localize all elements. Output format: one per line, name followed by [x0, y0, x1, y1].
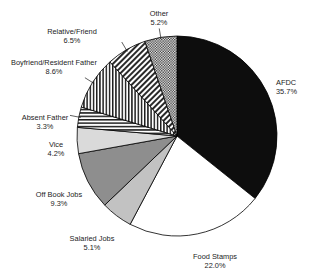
slice-label-name: Other: [128, 9, 190, 18]
slice-label-value: 5.1%: [52, 243, 132, 252]
slice-label-value: 22.0%: [169, 261, 261, 270]
slice-leader-line: [122, 42, 128, 51]
slice-label-value: 6.5%: [28, 36, 116, 45]
slice-label-afdc: AFDC 35.7%: [276, 78, 297, 96]
slice-label-name: Boyfriend/Resident Father: [2, 58, 106, 67]
slice-label-value: 9.3%: [17, 199, 101, 208]
slice-label-other: Other 5.2%: [128, 9, 190, 27]
slice-label-food-stamps: Food Stamps 22.0%: [169, 252, 261, 270]
slice-label-name: Vice: [34, 140, 78, 149]
slice-label-name: Food Stamps: [169, 252, 261, 261]
slice-label-absent-father: Absent Father 3.3%: [4, 113, 86, 131]
slice-leader-line: [85, 78, 94, 84]
slice-label-salaried-jobs: Salaried Jobs 5.1%: [52, 234, 132, 252]
slice-label-name: Off Book Jobs: [17, 190, 101, 199]
slice-label-vice: Vice 4.2%: [34, 140, 78, 158]
slice-label-name: Relative/Friend: [28, 27, 116, 36]
slice-label-value: 4.2%: [34, 149, 78, 158]
slice-label-relative-friend: Relative/Friend 6.5%: [28, 27, 116, 45]
slice-label-name: Absent Father: [4, 113, 86, 122]
slice-label-name: AFDC: [276, 78, 297, 87]
pie-chart: AFDC 35.7% Food Stamps 22.0% Salaried Jo…: [0, 0, 325, 278]
slice-label-value: 35.7%: [276, 87, 297, 96]
slice-label-value: 8.6%: [2, 67, 106, 76]
slice-label-name: Salaried Jobs: [52, 234, 132, 243]
slice-label-off-book-jobs: Off Book Jobs 9.3%: [17, 190, 101, 208]
slice-label-value: 3.3%: [4, 122, 86, 131]
slice-label-value: 5.2%: [128, 18, 190, 27]
slice-label-boyfriend-resident-father: Boyfriend/Resident Father 8.6%: [2, 58, 106, 76]
